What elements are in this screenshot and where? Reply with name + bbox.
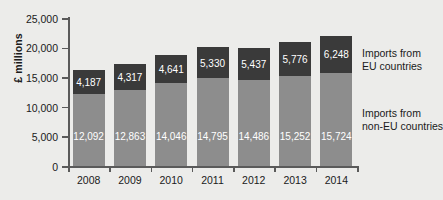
x-axis-tick	[233, 166, 235, 172]
y-axis-tick-label: 25,000	[26, 13, 58, 25]
y-axis-tick: 5,000	[62, 136, 68, 138]
bar-value-label-non-eu: 14,046	[155, 131, 187, 142]
y-axis-tick-label: 0	[52, 161, 58, 173]
y-axis-tick-label: 5,000	[32, 131, 58, 143]
legend-item-non-eu: Imports from non-EU countries	[362, 107, 443, 133]
bar-segment-eu[interactable]: 4,317	[114, 64, 146, 90]
bar-segment-eu[interactable]: 5,776	[279, 42, 311, 76]
bar-2013[interactable]: 15,2525,776	[279, 42, 311, 166]
legend-item-non-eu-line2: non-EU countries	[362, 120, 443, 133]
x-axis-label-2011: 2011	[192, 174, 233, 186]
bar-segment-eu[interactable]: 6,248	[320, 36, 352, 73]
x-axis-label-2012: 2012	[233, 174, 274, 186]
bar-segment-non-eu[interactable]: 15,724	[320, 73, 352, 166]
bar-2008[interactable]: 12,0924,187	[73, 70, 105, 166]
x-axis-label-2013: 2013	[274, 174, 315, 186]
x-axis-line	[68, 166, 358, 168]
y-axis-tick: 25,000	[62, 18, 68, 20]
bar-segment-non-eu[interactable]: 14,046	[155, 83, 187, 166]
bar-2011[interactable]: 14,7955,330	[197, 47, 229, 166]
legend-item-eu-line1: Imports from	[362, 47, 422, 60]
bar-value-label-non-eu: 15,252	[279, 131, 311, 142]
bar-segment-eu[interactable]: 5,437	[238, 48, 270, 80]
bar-2012[interactable]: 14,4865,437	[238, 48, 270, 166]
y-axis-tick-label: 20,000	[26, 42, 58, 54]
y-axis-tick-label: 10,000	[26, 102, 58, 114]
bar-value-label-non-eu: 15,724	[320, 131, 352, 142]
bar-value-label-eu: 5,776	[279, 53, 311, 64]
x-axis-tick	[109, 166, 111, 172]
legend-item-non-eu-line1: Imports from	[362, 107, 443, 120]
x-axis-tick	[151, 166, 153, 172]
bar-2009[interactable]: 12,8634,317	[114, 64, 146, 166]
y-axis-tick: 20,000	[62, 48, 68, 50]
bar-value-label-eu: 4,641	[155, 64, 187, 75]
bar-value-label-eu: 4,187	[73, 77, 105, 88]
bar-segment-non-eu[interactable]: 15,252	[279, 76, 311, 166]
bar-value-label-non-eu: 14,486	[238, 131, 270, 142]
y-axis-tick: 15,000	[62, 77, 68, 79]
bar-value-label-eu: 4,317	[114, 72, 146, 83]
bar-segment-eu[interactable]: 5,330	[197, 47, 229, 79]
bar-value-label-eu: 6,248	[320, 49, 352, 60]
bar-segment-non-eu[interactable]: 14,486	[238, 80, 270, 166]
bar-segment-eu[interactable]: 4,641	[155, 55, 187, 82]
bar-2010[interactable]: 14,0464,641	[155, 55, 187, 166]
bar-segment-non-eu[interactable]: 12,863	[114, 90, 146, 166]
legend-item-eu: Imports from EU countries	[362, 47, 422, 73]
bar-2014[interactable]: 15,7246,248	[320, 36, 352, 166]
x-axis-tick	[68, 166, 70, 172]
x-axis-tick	[192, 166, 194, 172]
x-axis-label-2008: 2008	[68, 174, 109, 186]
bar-segment-non-eu[interactable]: 14,795	[197, 78, 229, 166]
x-axis-tick	[357, 166, 359, 172]
x-axis-label-2014: 2014	[316, 174, 357, 186]
bar-value-label-eu: 5,437	[238, 59, 270, 70]
y-axis-line	[68, 17, 70, 166]
bar-value-label-non-eu: 12,092	[73, 131, 105, 142]
legend-item-eu-line2: EU countries	[362, 60, 422, 73]
plot-area: 05,00010,00015,00020,00025,00012,0924,18…	[68, 18, 357, 166]
x-axis-tick	[316, 166, 318, 172]
y-axis-tick-label: 15,000	[26, 72, 58, 84]
x-axis-tick	[274, 166, 276, 172]
bar-value-label-eu: 5,330	[197, 57, 229, 68]
bar-value-label-non-eu: 12,863	[114, 131, 146, 142]
y-axis-tick: 10,000	[62, 107, 68, 109]
y-axis-title: £ millions	[12, 8, 24, 108]
bar-segment-non-eu[interactable]: 12,092	[73, 94, 105, 166]
bar-value-label-non-eu: 14,795	[197, 131, 229, 142]
bar-segment-eu[interactable]: 4,187	[73, 70, 105, 95]
x-axis-label-2009: 2009	[109, 174, 150, 186]
x-axis-label-2010: 2010	[151, 174, 192, 186]
